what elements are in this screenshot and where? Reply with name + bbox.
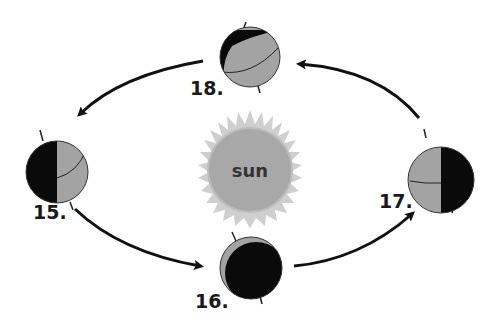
label-16: 16. <box>195 290 229 312</box>
sun: sun <box>198 110 302 228</box>
earth-position-18: 18. <box>190 22 280 99</box>
earth-position-16: 16. <box>195 232 287 312</box>
arrow-18-to-15 <box>80 61 203 114</box>
arrow-16-to-17 <box>294 214 412 266</box>
arrow-15-to-16 <box>75 209 200 266</box>
label-18: 18. <box>190 77 224 99</box>
label-15: 15. <box>33 201 67 223</box>
sun-label: sun <box>232 160 268 181</box>
earth-position-15: 15. <box>20 130 88 223</box>
label-17: 17. <box>379 190 413 212</box>
arrow-17-to-18 <box>300 64 419 118</box>
earth-position-17: 17. <box>379 129 481 220</box>
orbit-diagram: sun 18. 15. 16. <box>0 0 496 328</box>
